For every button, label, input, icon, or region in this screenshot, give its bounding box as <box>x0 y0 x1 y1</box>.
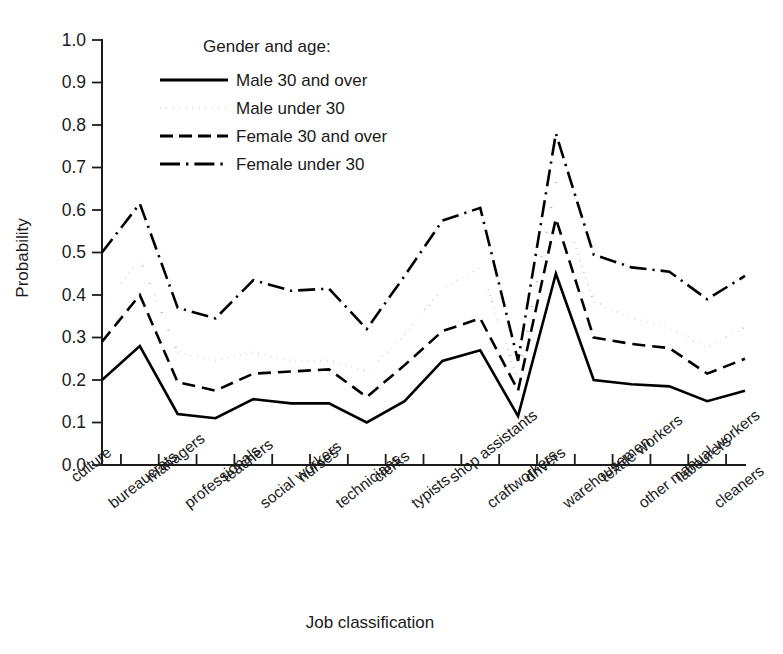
y-tick-label: 1.0 <box>62 30 87 50</box>
y-tick-label: 0.8 <box>62 115 86 135</box>
legend-entry-label: Female 30 and over <box>236 127 388 146</box>
legend-entry-label: Male under 30 <box>236 99 345 118</box>
y-tick-label: 0.5 <box>62 242 86 262</box>
y-tick-label: 0.1 <box>62 412 86 432</box>
y-tick-label: 0.3 <box>62 327 86 347</box>
y-tick-label: 0.9 <box>62 72 86 92</box>
chart-background <box>0 0 783 654</box>
line-chart-svg: 0.00.10.20.30.40.50.60.70.80.91.0 cultur… <box>0 0 783 654</box>
y-tick-label: 0.6 <box>62 200 86 220</box>
x-axis-title: Job classification <box>306 613 435 632</box>
y-tick-label: 0.4 <box>62 285 87 305</box>
y-tick-label: 0.7 <box>62 157 86 177</box>
y-tick-label: 0.2 <box>62 370 86 390</box>
legend-entry-label: Female under 30 <box>236 155 365 174</box>
legend-entry-label: Male 30 and over <box>236 71 368 90</box>
legend-title: Gender and age: <box>203 37 331 56</box>
y-axis-title: Probability <box>13 218 32 298</box>
chart-figure: 0.00.10.20.30.40.50.60.70.80.91.0 cultur… <box>0 0 783 654</box>
